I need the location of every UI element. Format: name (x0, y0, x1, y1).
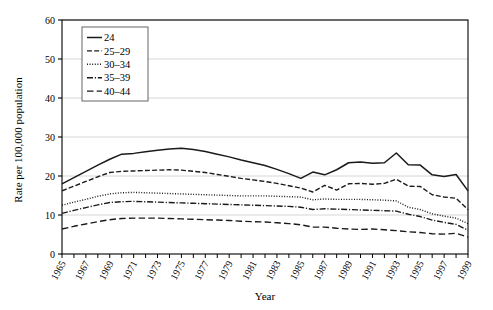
x-tick-label: 1997 (431, 259, 450, 282)
x-tick-label: 1985 (287, 259, 306, 282)
y-tick-label: 40 (45, 93, 55, 104)
y-tick-label: 60 (45, 15, 55, 26)
x-tick-label: 1987 (311, 259, 330, 282)
x-axis-tick-labels: 1965196719691971197319751977197919811983… (49, 259, 474, 282)
data-series (62, 148, 468, 237)
y-tick-label: 30 (45, 132, 55, 143)
x-tick-label: 1989 (335, 259, 354, 282)
x-tick-label: 1973 (144, 259, 163, 282)
chart-container: 0102030405060 19651967196919711973197519… (0, 0, 493, 310)
y-tick-label: 50 (45, 54, 55, 65)
legend-item-label: 35–39 (104, 72, 130, 83)
x-axis-ticks (62, 254, 468, 258)
x-tick-label: 1993 (383, 259, 402, 282)
series-line-35-39 (62, 201, 468, 230)
legend-item-label: 25–29 (104, 46, 130, 57)
x-tick-label: 1969 (96, 259, 115, 282)
x-tick-label: 1995 (407, 259, 426, 282)
x-tick-label: 1965 (49, 259, 68, 282)
x-axis-title: Year (255, 290, 276, 302)
y-axis-title: Rate per 100,000 population (12, 77, 24, 203)
y-axis-tick-labels: 0102030405060 (45, 15, 55, 260)
y-tick-label: 10 (45, 210, 55, 221)
chart-legend: 2425–2930–3435–3940–44 (82, 27, 148, 101)
x-tick-label: 1971 (120, 259, 139, 282)
line-chart: 0102030405060 19651967196919711973197519… (0, 0, 493, 310)
y-axis-ticks (58, 20, 62, 254)
x-tick-label: 1983 (264, 259, 283, 282)
x-tick-label: 1975 (168, 259, 187, 282)
x-tick-label: 1981 (240, 259, 259, 282)
series-line-24 (62, 148, 468, 191)
y-tick-label: 0 (50, 249, 55, 260)
x-tick-label: 1977 (192, 259, 211, 282)
legend-item-label: 24 (104, 32, 115, 43)
x-tick-label: 1999 (455, 259, 474, 282)
legend-item-label: 30–34 (104, 59, 131, 70)
x-tick-label: 1979 (216, 259, 235, 282)
legend-item-label: 40–44 (104, 86, 131, 97)
x-tick-label: 1991 (359, 259, 378, 282)
series-line-40-44 (62, 218, 468, 237)
y-tick-label: 20 (45, 171, 55, 182)
x-tick-label: 1967 (73, 259, 92, 282)
